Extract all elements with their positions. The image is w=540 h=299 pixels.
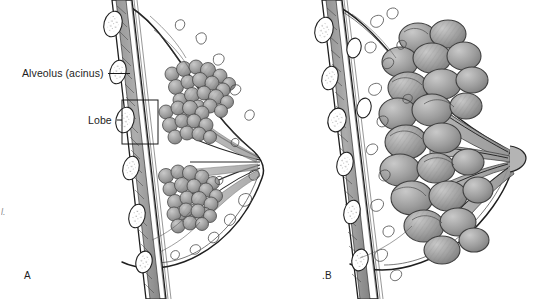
illustration-canvas: [0, 0, 540, 299]
label-alveolus-acinus: Alveolus (acinus): [22, 67, 104, 79]
cropped-caption-artifact: l.: [1, 207, 7, 221]
label-lobe: Lobe: [88, 114, 112, 126]
panel-label-b: .B: [322, 270, 332, 282]
panel-label-a: A: [24, 270, 31, 282]
breast-anatomy-figure: Alveolus (acinus) Lobe A .B l.: [0, 0, 540, 299]
